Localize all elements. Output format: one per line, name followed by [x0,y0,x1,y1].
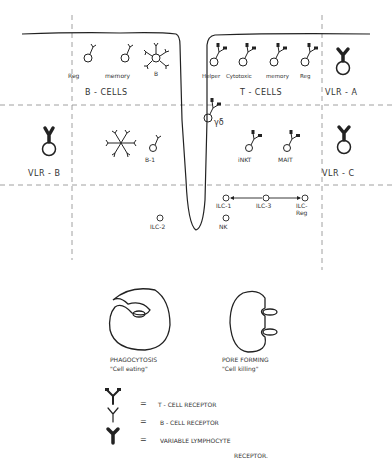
phagocytosis-cell-icon [110,289,170,350]
label-t-reg: Reg [300,73,310,79]
label-phagocytosis: PHAGOCYTOSIS [110,356,157,363]
group-t-cells: T - CELLS [240,88,282,97]
label-ilc2: ILC-2 [150,223,165,230]
tissue-boundary [22,33,370,230]
group-b-cells: B - CELLS [85,88,128,97]
b1-cell-icon [150,135,162,152]
legend-vlr-cont: RECEPTOR. [234,452,268,459]
label-gamma-delta: γδ [214,118,224,127]
legend-t-cell-receptor: T - CELL RECEPTOR [158,401,216,408]
b-cell-icons [84,43,169,69]
vlr-c-icon [338,127,351,154]
label-inkt: iNKT [238,156,251,163]
legend-eq-1: = [140,399,147,408]
label-ilc1: ILC-1 [216,202,231,209]
group-vlr-b: VLR - B [28,169,60,178]
label-b: B [154,70,158,77]
group-vlr-c: VLR - C [322,169,355,178]
legend-eq-2: = [140,417,147,426]
label-mait: MAIT [278,156,293,163]
label-t-cytotoxic: Cytotoxic [226,73,252,79]
label-ilc3: ILC-3 [256,202,271,209]
legend-vlr: VARIABLE LYMPHOCYTE [160,437,230,444]
t-cell-receptor-tips [217,43,319,50]
label-cell-eating: "Cell eating" [110,365,148,372]
nkt-mait-icons [246,133,298,152]
branched-cell-icon [106,130,136,157]
label-b-memory: memory [105,72,130,79]
label-t-memory: memory [266,73,289,79]
label-ilc-reg: ILC-Reg [296,202,316,216]
vlr-a-icon [337,49,350,75]
pore-forming-cell-icon [230,291,277,352]
vlr-b-icon [43,128,56,156]
label-nk: NK [219,223,227,230]
legend-icons [107,390,119,443]
label-b1: B-1 [145,156,155,163]
label-cell-killing: "Cell killing" [222,365,258,372]
label-b-reg: Reg [68,72,79,79]
group-vlr-a: VLR - A [325,88,357,97]
label-t-helper: Helper [202,73,220,79]
legend-eq-3: = [140,435,147,444]
legend-b-cell-receptor: B - CELL RECEPTOR [160,419,219,426]
label-pore-forming: PORE FORMING [222,356,269,363]
